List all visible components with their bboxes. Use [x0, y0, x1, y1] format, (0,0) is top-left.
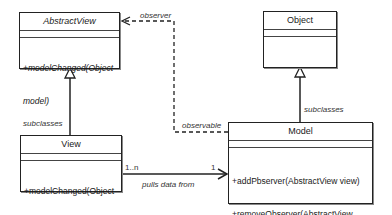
class-model[interactable]: Model +addPbserver(AbstractView view) +r… — [228, 122, 373, 204]
multiplicity-target: 1 — [211, 163, 215, 172]
operation: +modelChanged(Object — [23, 63, 117, 74]
uml-diagram: AbstractView +modelChanged(Object model)… — [0, 0, 392, 215]
label-subclasses-model: subclasses — [304, 105, 344, 114]
class-object[interactable]: Object — [263, 11, 337, 68]
class-name: Model — [229, 123, 372, 141]
attributes-compartment — [229, 141, 372, 148]
operation-continued: model) — [23, 96, 117, 107]
operations-compartment: +modelChanged(Object model) — [21, 161, 121, 215]
label-observable: observable — [182, 121, 221, 130]
class-name: View — [21, 136, 121, 154]
class-name: Object — [264, 12, 336, 30]
class-name: AbstractView — [20, 13, 119, 31]
operations-compartment: +addPbserver(AbstractView view) +removeO… — [229, 148, 372, 215]
operation-add-observer: +addPbserver(AbstractView view) — [232, 176, 370, 187]
attributes-compartment — [264, 30, 336, 37]
class-abstractview[interactable]: AbstractView +modelChanged(Object model) — [19, 12, 120, 69]
label-observer: observer — [140, 11, 171, 20]
attributes-compartment — [21, 154, 121, 161]
operations-compartment: +modelChanged(Object model) — [20, 38, 119, 131]
operation-remove-observer: +removeObserver(AbstractView view) — [232, 209, 370, 215]
multiplicity-source: 1..n — [125, 163, 138, 172]
label-association: pulls data from — [142, 180, 194, 189]
attributes-compartment — [20, 31, 119, 38]
label-subclasses-view: subclasses — [23, 119, 63, 128]
operation: +modelChanged(Object — [24, 186, 119, 197]
operations-compartment — [264, 37, 336, 42]
hollow-triangle-icon — [295, 67, 305, 77]
dependency-observer — [122, 17, 228, 132]
class-view[interactable]: View +modelChanged(Object model) — [20, 135, 122, 192]
